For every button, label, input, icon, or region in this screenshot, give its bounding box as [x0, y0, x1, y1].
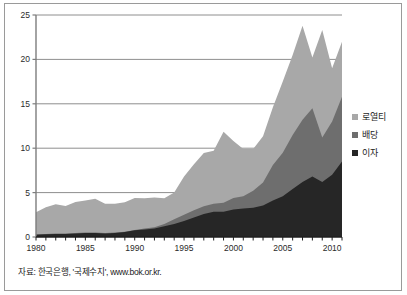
legend-label-dividend: 배당	[362, 128, 378, 141]
svg-text:20: 20	[21, 54, 31, 64]
svg-text:10: 10	[21, 143, 31, 153]
svg-text:0: 0	[25, 232, 30, 242]
legend-swatch-royalty	[352, 114, 358, 120]
chart-figure: 05101520251980198519901995200020052010 로…	[0, 0, 407, 295]
svg-text:25: 25	[21, 10, 31, 20]
svg-text:2005: 2005	[273, 243, 292, 253]
legend-item-royalty[interactable]: 로열티	[352, 110, 385, 123]
legend-label-interest: 이자	[362, 146, 378, 159]
svg-text:5: 5	[25, 188, 30, 198]
svg-text:1995: 1995	[175, 243, 194, 253]
svg-text:1990: 1990	[125, 243, 144, 253]
svg-text:15: 15	[21, 99, 31, 109]
legend-label-royalty: 로열티	[362, 110, 385, 123]
legend-swatch-interest	[352, 150, 358, 156]
stacked-area-chart: 05101520251980198519901995200020052010	[0, 0, 407, 295]
svg-text:2010: 2010	[323, 243, 342, 253]
source-note: 자료: 한국은행, '국제수지', www.bok.or.kr.	[18, 265, 161, 277]
svg-text:1985: 1985	[76, 243, 95, 253]
svg-text:1980: 1980	[27, 243, 46, 253]
legend-swatch-dividend	[352, 132, 358, 138]
legend-item-interest[interactable]: 이자	[352, 146, 378, 159]
legend-item-dividend[interactable]: 배당	[352, 128, 378, 141]
svg-text:2000: 2000	[224, 243, 243, 253]
